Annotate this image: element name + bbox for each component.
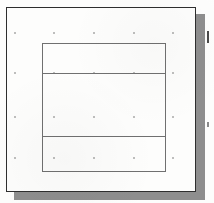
registration-dot [172, 32, 174, 34]
registration-dot [172, 72, 174, 74]
registration-dot [14, 72, 16, 74]
technical-drawing-figure [0, 0, 214, 203]
lower-division-line [42, 136, 166, 137]
sheet-shadow-right [196, 14, 205, 200]
registration-dot [172, 116, 174, 118]
registration-dot [14, 157, 16, 159]
lower-edge-mark [207, 122, 209, 127]
registration-dot [172, 157, 174, 159]
registration-dot [53, 32, 55, 34]
registration-dot [14, 116, 16, 118]
registration-dot [133, 32, 135, 34]
upper-division-line [42, 73, 166, 74]
inner-rectangle [42, 43, 166, 172]
upper-edge-mark [207, 31, 209, 43]
sheet-shadow-bottom [14, 191, 205, 200]
registration-dot [93, 32, 95, 34]
registration-dot [14, 32, 16, 34]
